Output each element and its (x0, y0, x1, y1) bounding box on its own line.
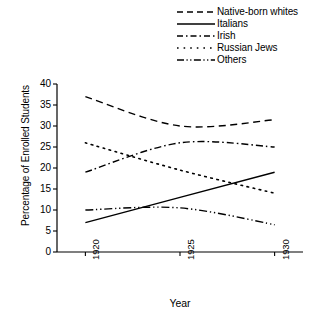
dash-dot-dot-line-swatch (176, 55, 216, 65)
dash-dot-line-swatch (176, 31, 216, 41)
legend-label-italians: Italians (216, 19, 248, 29)
y-tick-label: 20 (29, 162, 51, 173)
legend-item-native-born-whites: Native-born whites (176, 6, 331, 18)
series-line-italians (85, 172, 274, 222)
x-tick-label: 1920 (90, 239, 101, 260)
y-tick-label: 35 (29, 99, 51, 110)
legend-label-others: Others (216, 55, 246, 65)
y-tick-label: 0 (29, 246, 51, 257)
chart-figure: Native-born whites Italians Irish (0, 0, 333, 317)
x-axis-label: Year (55, 297, 305, 309)
y-tick-label: 30 (29, 120, 51, 131)
legend-label-irish: Irish (216, 31, 235, 41)
y-tick-label: 5 (29, 225, 51, 236)
legend-label-russian-jews: Russian Jews (216, 43, 278, 53)
series-line-russian-jews (85, 143, 274, 193)
plot-area: 0510152025303540 192019251930 (0, 70, 333, 270)
legend-item-others: Others (176, 54, 331, 66)
axis-frame (57, 84, 303, 252)
dashed-line-swatch (176, 7, 216, 17)
x-tick-label: 1925 (185, 239, 196, 260)
y-tick-label: 10 (29, 204, 51, 215)
y-tick-label: 25 (29, 141, 51, 152)
y-tick-label: 40 (29, 78, 51, 89)
x-tick-marks (85, 252, 274, 256)
y-tick-label: 15 (29, 183, 51, 194)
x-tick-label: 1930 (280, 239, 291, 260)
dotted-line-swatch (176, 43, 216, 53)
series-line-native-born-whites (85, 97, 274, 127)
solid-line-swatch (176, 19, 216, 29)
legend-item-russian-jews: Russian Jews (176, 42, 331, 54)
series-line-irish (85, 142, 274, 173)
legend-label-native-born-whites: Native-born whites (216, 7, 298, 17)
series-line-others (85, 207, 274, 225)
legend-item-italians: Italians (176, 18, 331, 30)
legend-item-irish: Irish (176, 30, 331, 42)
y-axis-label: Percentage of Enrolled Students (20, 68, 31, 243)
chart-legend: Native-born whites Italians Irish (176, 6, 331, 66)
data-series-group (85, 97, 274, 225)
